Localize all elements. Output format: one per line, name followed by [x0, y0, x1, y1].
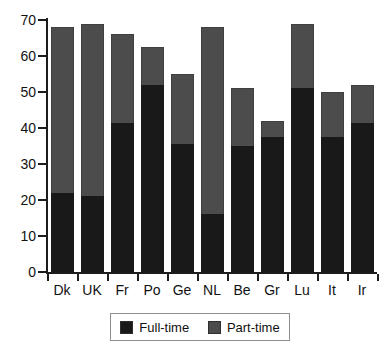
bar-segment-full-time-Lu: [291, 88, 314, 272]
y-tick-label-40: 40: [0, 121, 36, 135]
x-axis-line: [46, 272, 377, 274]
bar-segment-full-time-Fr: [111, 123, 134, 272]
x-tick-1: [77, 274, 79, 281]
bar-Dk: [51, 27, 74, 272]
bar-segment-full-time-It: [321, 137, 344, 272]
bar-It: [321, 92, 344, 272]
bar-segment-part-time-Be: [231, 88, 254, 146]
plot-area: [47, 20, 377, 272]
bar-Po: [141, 47, 164, 272]
y-tick-label-70: 70: [0, 13, 36, 27]
bar-segment-part-time-Ir: [351, 85, 374, 123]
y-tick-label-20: 20: [0, 193, 36, 207]
y-tick-60: [38, 55, 47, 57]
bar-Fr: [111, 34, 134, 272]
x-tick-6: [227, 274, 229, 281]
x-tick-5: [197, 274, 199, 281]
bar-segment-part-time-Ge: [171, 74, 194, 144]
y-tick-label-60: 60: [0, 49, 36, 63]
y-tick-label-0: 0: [0, 265, 36, 279]
x-tick-3: [137, 274, 139, 281]
y-tick-label-30: 30: [0, 157, 36, 171]
bar-segment-part-time-Lu: [291, 24, 314, 89]
bar-segment-full-time-Ir: [351, 123, 374, 272]
legend-swatch-full-time-icon: [120, 321, 133, 334]
x-tick-10: [347, 274, 349, 281]
legend-label-part-time: Part-time: [227, 321, 280, 334]
x-tick-4: [167, 274, 169, 281]
bar-segment-part-time-UK: [81, 24, 104, 197]
y-tick-label-10: 10: [0, 229, 36, 243]
y-tick-40: [38, 127, 47, 129]
y-tick-30: [38, 163, 47, 165]
bar-NL: [201, 27, 224, 272]
legend-item-full-time: Full-time: [120, 321, 189, 334]
bar-segment-part-time-Fr: [111, 34, 134, 122]
x-axis-label-Ir: Ir: [340, 283, 384, 297]
y-tick-70: [38, 19, 47, 21]
bar-Be: [231, 88, 254, 272]
bar-segment-part-time-It: [321, 92, 344, 137]
bar-Ir: [351, 85, 374, 272]
x-tick-8: [287, 274, 289, 281]
y-tick-50: [38, 91, 47, 93]
legend-label-full-time: Full-time: [139, 321, 189, 334]
bar-segment-full-time-UK: [81, 196, 104, 272]
bar-segment-full-time-Gr: [261, 137, 284, 272]
bar-segment-part-time-Gr: [261, 121, 284, 137]
x-tick-9: [317, 274, 319, 281]
legend-item-part-time: Part-time: [208, 321, 280, 334]
x-tick-2: [107, 274, 109, 281]
chart-legend: Full-time Part-time: [110, 313, 290, 341]
x-tick-0: [47, 274, 49, 281]
bar-segment-full-time-Be: [231, 146, 254, 272]
bar-Lu: [291, 24, 314, 272]
bar-segment-full-time-Ge: [171, 144, 194, 272]
y-tick-10: [38, 235, 47, 237]
bar-segment-part-time-Dk: [51, 27, 74, 193]
bar-segment-full-time-Po: [141, 85, 164, 272]
bar-Gr: [261, 121, 284, 272]
bar-segment-part-time-Po: [141, 47, 164, 85]
bar-Ge: [171, 74, 194, 272]
x-tick-7: [257, 274, 259, 281]
y-tick-label-50: 50: [0, 85, 36, 99]
y-tick-20: [38, 199, 47, 201]
y-tick-0: [38, 271, 47, 273]
stacked-bar-chart: 010203040506070 DkUKFrPoGeNLBeGrLuItIr F…: [0, 0, 388, 354]
bar-segment-part-time-NL: [201, 27, 224, 214]
bar-segment-full-time-Dk: [51, 193, 74, 272]
x-tick-11: [377, 274, 379, 281]
legend-swatch-part-time-icon: [208, 321, 221, 334]
bar-UK: [81, 24, 104, 272]
bar-segment-full-time-NL: [201, 214, 224, 272]
